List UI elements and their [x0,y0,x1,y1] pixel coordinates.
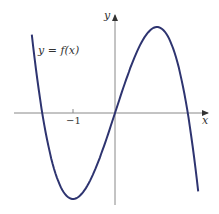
tick-label-neg1: −1 [66,115,81,126]
plot-area [0,0,219,214]
y-axis-label: y [104,9,110,22]
function-label: y = f(x) [38,44,79,57]
x-axis-label: x [202,114,208,127]
